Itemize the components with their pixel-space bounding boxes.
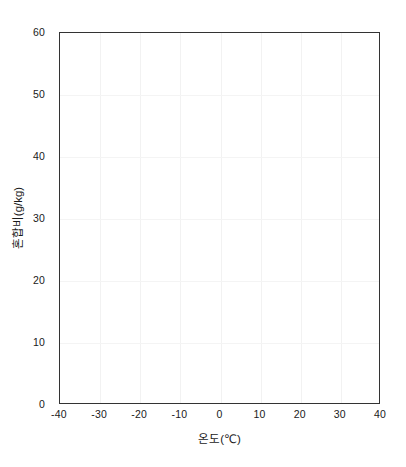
x-tick-label: -40 <box>51 408 67 420</box>
gridline-horizontal <box>60 281 379 282</box>
y-axis-title: 혼합비(g/kg) <box>9 187 25 249</box>
plot-area <box>59 32 380 404</box>
gridline-vertical <box>221 33 222 403</box>
x-tick-label: -30 <box>91 408 107 420</box>
chart-figure: -40-30-20-10010203040 0102030405060 온도(℃… <box>0 0 406 467</box>
gridline-horizontal <box>60 95 379 96</box>
gridline-vertical <box>180 33 181 403</box>
gridline-vertical <box>341 33 342 403</box>
gridline-vertical <box>261 33 262 403</box>
gridline-vertical <box>140 33 141 403</box>
x-tick-label: 0 <box>216 408 222 420</box>
x-axis-title: 온도(℃) <box>59 430 380 446</box>
gridline-vertical <box>301 33 302 403</box>
gridline-horizontal <box>60 343 379 344</box>
x-tick-label: 10 <box>254 408 266 420</box>
gridline-horizontal <box>60 219 379 220</box>
gridline-vertical <box>100 33 101 403</box>
x-tick-label: 20 <box>294 408 306 420</box>
y-axis-title-wrap: 혼합비(g/kg) <box>8 32 26 404</box>
x-tick-label: 40 <box>374 408 386 420</box>
x-tick-label: -10 <box>171 408 187 420</box>
x-tick-label: 30 <box>334 408 346 420</box>
x-tick-label: -20 <box>131 408 147 420</box>
gridline-horizontal <box>60 157 379 158</box>
